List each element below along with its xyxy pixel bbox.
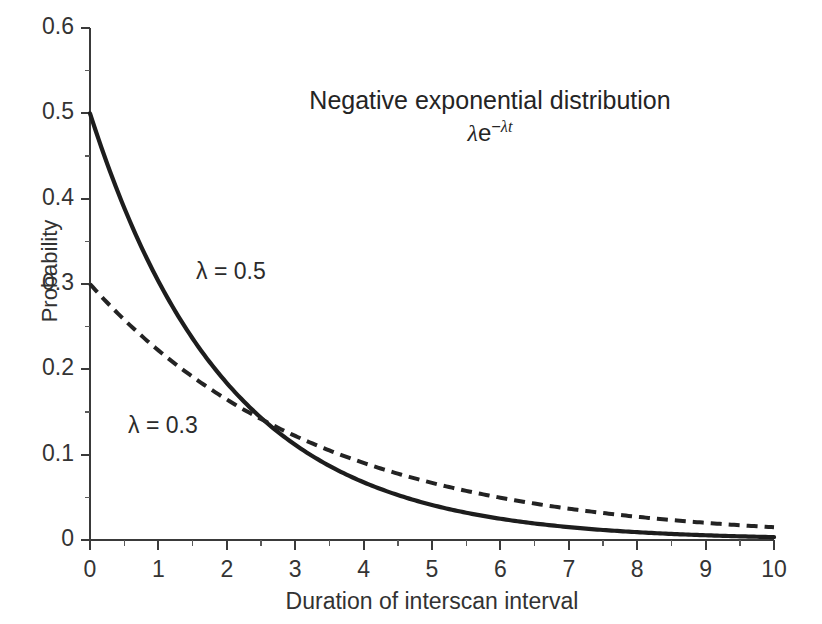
x-tick-label: 3	[265, 556, 325, 583]
y-axis-title: Probability	[37, 191, 63, 351]
x-tick-label: 0	[60, 556, 120, 583]
x-tick-label: 8	[607, 556, 667, 583]
x-ticks-group	[90, 540, 774, 550]
y-ticks-group	[81, 28, 90, 540]
formula-exponent-t: t	[508, 117, 513, 136]
x-tick-label: 9	[676, 556, 736, 583]
x-tick-label: 7	[539, 556, 599, 583]
y-tick-label: 0.6	[0, 13, 74, 40]
formula-lambda: λ	[468, 120, 478, 146]
x-tick-label: 1	[128, 556, 188, 583]
series-curve-1	[90, 113, 774, 537]
series-group	[90, 113, 774, 537]
x-tick-label: 6	[470, 556, 530, 583]
chart-figure: 00.10.20.30.40.50.6 012345678910 Probabi…	[0, 0, 822, 624]
chart-formula: λe−λt	[300, 117, 680, 148]
y-tick-label: 0	[0, 525, 74, 552]
x-tick-label: 4	[334, 556, 394, 583]
formula-exponent: −λt	[491, 117, 512, 135]
formula-exponent-lambda: λ	[501, 117, 508, 136]
y-tick-label: 0.1	[0, 440, 74, 467]
chart-title-block: Negative exponential distribution λe−λt	[300, 86, 680, 148]
x-tick-label: 5	[402, 556, 462, 583]
formula-exponent-minus: −	[491, 117, 501, 135]
x-tick-label: 10	[744, 556, 804, 583]
chart-title: Negative exponential distribution	[300, 86, 680, 115]
y-tick-label: 0.5	[0, 98, 74, 125]
series-annotation-lambda-0-3: λ = 0.3	[128, 412, 198, 439]
x-tick-label: 2	[197, 556, 257, 583]
series-curve-2	[90, 284, 774, 527]
series-annotation-lambda-0-5: λ = 0.5	[196, 258, 266, 285]
formula-base: e	[478, 119, 491, 146]
y-tick-label: 0.2	[0, 354, 74, 381]
x-axis-title: Duration of interscan interval	[90, 588, 774, 615]
